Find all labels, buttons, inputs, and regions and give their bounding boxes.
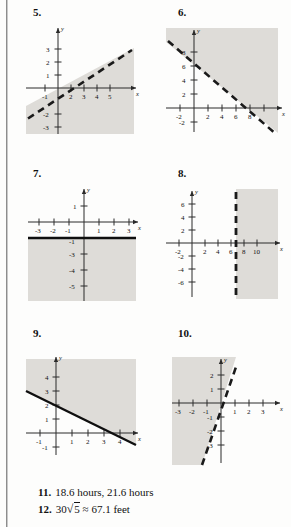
- problem-5-ytick--3: -3: [43, 124, 49, 132]
- problem-9-x-axis-label: x: [137, 435, 141, 442]
- answer-12-radicand: 5: [73, 503, 80, 515]
- problem-10-y-axis-label: y: [223, 356, 227, 363]
- problem-5-xtick--1: -1: [42, 93, 48, 101]
- problem-7-x-axis-label: x: [137, 224, 141, 231]
- problem-9-ytick--1: -1: [42, 444, 48, 452]
- problem-6-graph: -2 2 4 6 8 8 6 4 2 -2 x y: [160, 20, 288, 138]
- problem-10-xtick-1: 1: [233, 408, 237, 416]
- problem-10-ytick-1: 1: [210, 386, 214, 394]
- problem-6: 6.: [178, 6, 186, 18]
- problem-10-ytick--2: -2: [207, 428, 213, 436]
- problem-8-x-axis-label: x: [279, 245, 283, 252]
- problem-8-number: 8.: [178, 167, 186, 179]
- problem-9-xtick-3: 3: [102, 438, 106, 446]
- problem-7-xtick--3: -3: [35, 227, 41, 235]
- problem-5-xtick-5: 5: [108, 93, 112, 101]
- problem-8-xtick-10: 10: [253, 248, 261, 256]
- problem-6-ytick-6: 6: [182, 63, 186, 71]
- problem-8-graph: -2 2 4 6 8 10 6 4 2 -2 -4 -6 x y: [160, 181, 288, 303]
- problem-5-xtick-3: 3: [82, 93, 86, 101]
- problem-5-graph: -1 2 3 4 5 3 2 1 -2 -3 x y: [18, 20, 143, 138]
- problem-5-xtick-2: 2: [69, 93, 73, 101]
- problem-7-ytick--3: -3: [69, 251, 75, 259]
- problem-10-xtick--2: -2: [189, 408, 195, 416]
- problem-10-ytick-2: 2: [210, 372, 214, 380]
- answer-12-suffix: ≈ 67.1 feet: [83, 503, 130, 515]
- square-root-icon: √5: [67, 501, 80, 518]
- problem-9-ytick-4: 4: [45, 374, 49, 382]
- problem-9-ytick-2: 2: [45, 402, 49, 410]
- problem-8-ytick-2: 2: [181, 227, 185, 235]
- page-left-rule-shadow: [7, 0, 8, 527]
- problem-7-ytick--4: -4: [69, 267, 75, 275]
- problem-8-ytick--2: -2: [178, 253, 184, 261]
- problem-8-xtick-4: 4: [216, 248, 220, 256]
- problem-9-ytick-1: 1: [45, 416, 49, 424]
- problem-8-y-axis-label: y: [194, 188, 198, 195]
- problem-5-ytick-1: 1: [46, 72, 50, 80]
- problem-6-xtick-4: 4: [220, 113, 224, 121]
- problem-8-ytick-4: 4: [181, 214, 185, 222]
- problem-7-number: 7.: [33, 167, 41, 179]
- problem-8-ytick--6: -6: [178, 279, 184, 287]
- answer-11-text: 18.6 hours, 21.6 hours: [55, 486, 153, 498]
- problem-7-xtick-2: 2: [112, 227, 116, 235]
- problem-10-graph: -3 -2 -1 1 2 3 2 1 -1 -2 -3 x y: [166, 341, 290, 467]
- answer-item-12: 12.30√5 ≈ 67.1 feet: [38, 501, 154, 518]
- problem-10-ytick--1: -1: [207, 414, 213, 422]
- answer-11-label: 11.: [38, 486, 51, 498]
- problem-6-x-axis-label: x: [281, 110, 285, 117]
- problem-9-xtick-1: 1: [70, 438, 74, 446]
- problem-7-graph: -3 -2 -1 1 2 3 1 -3 -4 -5 -1 x y: [18, 181, 146, 303]
- problem-7-ytick-1: 1: [73, 203, 77, 211]
- answer-12-label: 12.: [38, 503, 52, 515]
- answer-item-11: 11.18.6 hours, 21.6 hours: [38, 484, 154, 501]
- problem-7: 7.: [33, 167, 41, 179]
- problem-8-ytick-6: 6: [181, 201, 185, 209]
- problem-9-xtick-2: 2: [86, 438, 90, 446]
- problem-10-ytick--3: -3: [207, 442, 213, 450]
- problem-6-ytick--2: -2: [179, 119, 185, 127]
- problem-9-graph: -1 1 2 3 4 4 3 2 1 -1 x y: [18, 341, 146, 463]
- problem-6-xtick-2: 2: [206, 113, 210, 121]
- problem-7-ytick--1-lower: -1: [69, 238, 75, 246]
- problem-5-xtick-4: 4: [95, 93, 99, 101]
- problem-6-xtick-8: 8: [248, 113, 252, 121]
- problem-8: 8.: [178, 167, 186, 179]
- problem-8-ytick--4: -4: [178, 266, 184, 274]
- problem-7-xtick-1: 1: [97, 227, 101, 235]
- problem-6-xtick-6: 6: [234, 113, 238, 121]
- problem-9-ytick-3: 3: [45, 388, 49, 396]
- problem-10: 10.: [178, 327, 192, 339]
- problem-7-xtick--2: -2: [50, 227, 56, 235]
- problem-10-xtick-2: 2: [247, 408, 251, 416]
- problem-10-x-axis-label: x: [279, 405, 283, 412]
- problem-8-xtick-8: 8: [242, 248, 246, 256]
- problem-9-xtick-4: 4: [118, 438, 122, 446]
- problem-6-number: 6.: [178, 6, 186, 18]
- problem-9-y-axis-label: y: [58, 354, 62, 361]
- problem-10-xtick-3: 3: [261, 408, 265, 416]
- problem-10-xtick--3: -3: [175, 408, 181, 416]
- answer-12-prefix: 30: [56, 503, 67, 515]
- problem-6-ytick-2: 2: [182, 91, 186, 99]
- problem-6-ytick-8: 8: [182, 49, 186, 57]
- problem-7-y-axis-label: y: [86, 186, 90, 193]
- problem-6-y-axis-label: y: [196, 27, 200, 34]
- problem-9: 9.: [33, 327, 41, 339]
- answer-list: 11.18.6 hours, 21.6 hours 12.30√5 ≈ 67.1…: [38, 484, 154, 518]
- problem-5-number: 5.: [33, 6, 41, 18]
- problem-7-xtick--1: -1: [65, 227, 71, 235]
- problem-6-ytick-4: 4: [182, 77, 186, 85]
- problem-9-number: 9.: [33, 327, 41, 339]
- problem-5-y-axis-label: y: [60, 25, 64, 32]
- problem-5-x-axis-label: x: [135, 90, 139, 97]
- problem-5-ytick--2: -2: [43, 111, 49, 119]
- problem-7-xtick-3: 3: [127, 227, 131, 235]
- problem-5: 5.: [33, 6, 41, 18]
- problem-7-ytick--5: -5: [69, 283, 75, 291]
- problem-10-number: 10.: [178, 327, 192, 339]
- problem-8-xtick-2: 2: [203, 248, 207, 256]
- problem-5-ytick-3: 3: [46, 46, 50, 54]
- problem-8-xtick-6: 6: [229, 248, 233, 256]
